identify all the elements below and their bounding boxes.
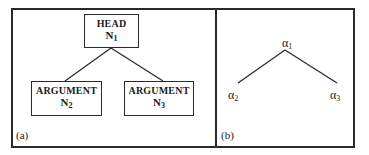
edge-a1-a3 (285, 50, 337, 83)
argument-title: ARGUMENT (32, 85, 101, 96)
tree-edges (0, 0, 369, 155)
argument-node-2: ARGUMENT N2 (31, 81, 102, 116)
argument-node-3: ARGUMENT N3 (124, 81, 194, 116)
head-node: HEAD N1 (84, 14, 139, 48)
edge-a1-a2 (238, 50, 285, 83)
edge-head-arg3 (111, 48, 163, 81)
argument-symbol: N2 (32, 96, 101, 112)
argument-title: ARGUMENT (125, 85, 193, 96)
alpha-1-node: α1 (282, 36, 292, 51)
head-symbol: N1 (85, 29, 138, 45)
head-title: HEAD (85, 18, 138, 29)
panel-a-label: (a) (16, 129, 28, 141)
panel-b-label: (b) (221, 129, 234, 141)
alpha-3-node: α3 (330, 88, 340, 103)
alpha-2-node: α2 (228, 88, 238, 103)
argument-symbol: N3 (125, 96, 193, 112)
edge-head-arg2 (65, 48, 111, 81)
